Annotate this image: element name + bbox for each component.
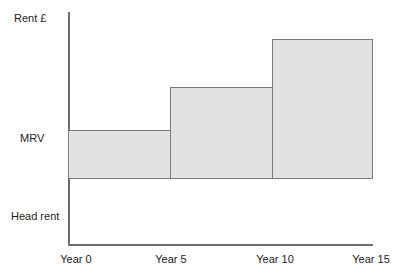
y-axis-line	[68, 12, 70, 246]
rent-step-bar-year0-5	[68, 130, 171, 179]
x-axis-tick-year-0: Year 0	[60, 254, 91, 265]
x-axis-tick-year-10: Year 10	[256, 254, 294, 265]
x-axis-line	[68, 244, 373, 246]
y-axis-label-mrv: MRV	[20, 133, 44, 144]
y-axis-label-head-rent: Head rent	[11, 211, 59, 222]
y-axis-label-rent: Rent £	[14, 13, 46, 24]
rent-step-chart: Rent £ MRV Head rent Year 0 Year 5 Year …	[0, 0, 402, 276]
x-axis-tick-year-15: Year 15	[352, 254, 390, 265]
rent-step-bar-year10-15	[272, 39, 373, 179]
x-axis-tick-year-5: Year 5	[155, 254, 186, 265]
rent-step-bar-year5-10	[170, 87, 273, 179]
